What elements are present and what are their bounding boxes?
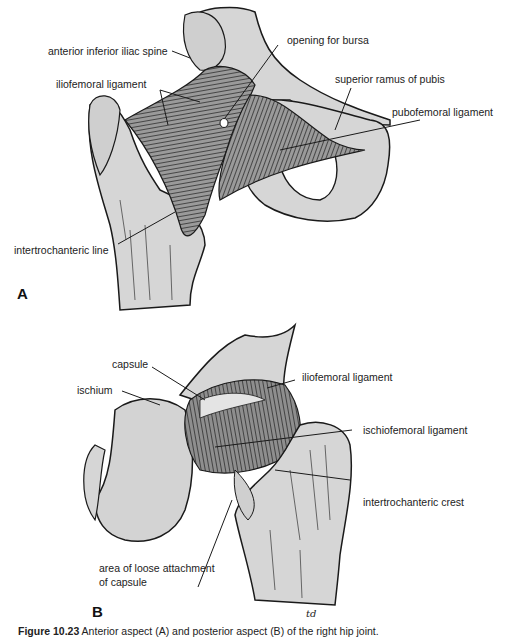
label-of-capsule: of capsule bbox=[99, 576, 147, 588]
label-ischium: ischium bbox=[77, 384, 113, 396]
caption-text: Anterior aspect (A) and posterior aspect… bbox=[79, 625, 378, 637]
label-intertrochanteric-crest: intertrochanteric crest bbox=[363, 496, 464, 508]
label-capsule: capsule bbox=[112, 358, 148, 370]
label-area-of-loose-attachment: area of loose attachment bbox=[99, 562, 215, 574]
label-pubofemoral-ligament: pubofemoral ligament bbox=[392, 106, 493, 118]
panel-letter-b: B bbox=[92, 603, 103, 620]
label-superior-ramus-of-pubis: superior ramus of pubis bbox=[335, 73, 445, 85]
label-iliofemoral-ligament-b: iliofemoral ligament bbox=[302, 371, 392, 383]
label-iliofemoral-ligament-a: iliofemoral ligament bbox=[56, 78, 146, 90]
label-opening-for-bursa: opening for bursa bbox=[287, 34, 369, 46]
artist-signature: td bbox=[306, 608, 316, 619]
panel-letter-a: A bbox=[17, 285, 28, 302]
figure-number: Figure 10.23 bbox=[18, 625, 79, 637]
label-ischiofemoral-ligament: ischiofemoral ligament bbox=[363, 424, 467, 436]
label-intertrochanteric-line: intertrochanteric line bbox=[14, 244, 109, 256]
figure-caption: Figure 10.23 Anterior aspect (A) and pos… bbox=[18, 625, 379, 637]
label-anterior-inferior-iliac-spine: anterior inferior iliac spine bbox=[48, 45, 168, 57]
